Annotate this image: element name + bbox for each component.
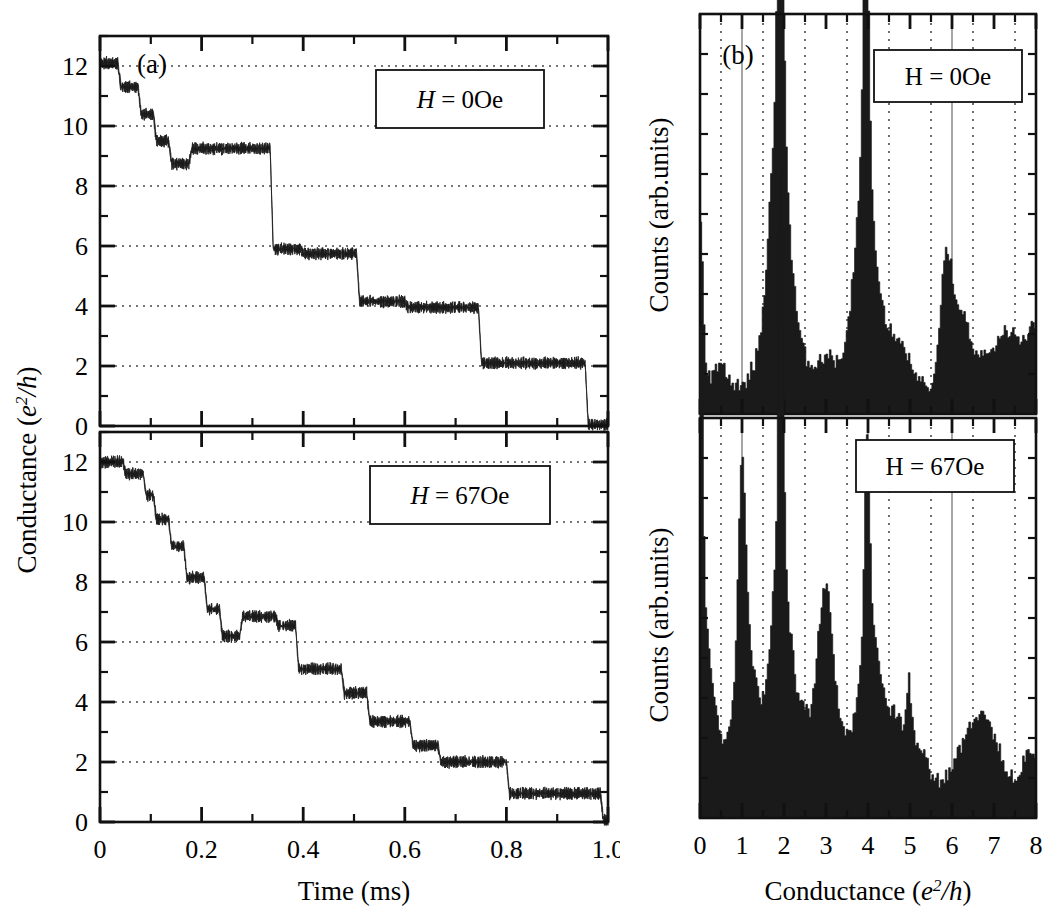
panel-a-bottom-ytick-label: 8 bbox=[75, 568, 88, 597]
panel-a-bottom-ytick-label: 2 bbox=[75, 748, 88, 777]
panel-b-top-annotation-value: 0Oe bbox=[950, 63, 992, 90]
svg-text:Conductance (e2/h): Conductance (e2/h) bbox=[12, 366, 43, 573]
panel-b-bottom-xtick-label: 2 bbox=[778, 831, 791, 860]
ylabel-suffix: ) bbox=[12, 366, 42, 375]
panel-a-bottom-ytick-label: 6 bbox=[75, 628, 88, 657]
panel-a-top-ytick-label: 0 bbox=[75, 412, 88, 441]
panel-b-xlabel: Conductance (e2/h) bbox=[764, 876, 971, 907]
panel-b-bottom-annotation-text: H = 67Oe bbox=[886, 453, 985, 480]
panel-a-top-subplot: 024681012(a)H = 0Oe bbox=[62, 36, 608, 441]
panel-b-bottom-xtick-label: 0 bbox=[694, 831, 707, 860]
panel-b-bottom-xtick-label: 3 bbox=[820, 831, 833, 860]
ylabel-e: e bbox=[12, 405, 42, 417]
panel-b-bottom-xtick-label: 8 bbox=[1030, 831, 1043, 860]
panel-b-bottom-ylabel: Counts (arb.units) bbox=[644, 528, 674, 723]
panel-b-top-annotation-equals: = bbox=[923, 63, 950, 90]
panel-a-bottom-ytick-label: 4 bbox=[75, 688, 88, 717]
panel-a-top-ytick-label: 12 bbox=[62, 52, 88, 81]
panel-b-top-subplot: (b)H = 0Oe bbox=[700, 0, 1036, 414]
panel-a-bottom-xtick-label: 0 bbox=[94, 835, 107, 864]
figure-container: Conductance (e2/h) 024681012(a)H = 0Oe 0… bbox=[0, 0, 1056, 924]
panel-b-bottom-xtick-label: 1 bbox=[736, 831, 749, 860]
panel-a-bottom-xtick-label: 0.8 bbox=[490, 835, 523, 864]
panel-a-ylabel: Conductance (e2/h) bbox=[12, 366, 43, 573]
panel-a-bottom-xtick-label: 0.4 bbox=[287, 835, 320, 864]
panel-a-top-ytick-label: 8 bbox=[75, 172, 88, 201]
panel-a-bottom-xtick-label: 0.2 bbox=[185, 835, 218, 864]
panel-a-top-annotation-text: H = 0Oe bbox=[416, 86, 503, 113]
panel-a-top-ytick-label: 10 bbox=[62, 112, 88, 141]
xlabel-e: e bbox=[921, 876, 933, 906]
panel-b-bottom-annotation-equals: = bbox=[904, 453, 931, 480]
panel-a-top-annotation-value: 0Oe bbox=[462, 86, 504, 113]
panel-a-top-ytick-label: 6 bbox=[75, 232, 88, 261]
panel-a-bottom-xtick-label: 0.6 bbox=[389, 835, 422, 864]
panel-a-bottom-annotation-value: 67Oe bbox=[455, 482, 509, 509]
xlabel-denom: /h bbox=[940, 876, 963, 906]
xlabel-suffix: ) bbox=[963, 876, 972, 906]
panel-a-bottom-ytick-label: 10 bbox=[62, 508, 88, 537]
ylabel-denom: /h bbox=[12, 375, 42, 398]
panel-b: Counts (arb.units) Counts (arb.units) (b… bbox=[620, 0, 1056, 924]
panel-a-xlabel: Time (ms) bbox=[298, 876, 410, 906]
panel-b-top-ylabel: Counts (arb.units) bbox=[644, 118, 674, 313]
panel-a-label: (a) bbox=[137, 49, 167, 79]
panel-a-bottom-annotation-variable: H bbox=[410, 482, 431, 509]
panel-a-top-ytick-label: 4 bbox=[75, 292, 88, 321]
panel-a-top-ytick-label: 2 bbox=[75, 352, 88, 381]
panel-b-bottom-annotation-value: 67Oe bbox=[930, 453, 984, 480]
panel-b-top-annotation-text: H = 0Oe bbox=[905, 63, 991, 90]
panel-a-bottom-ytick-label: 0 bbox=[75, 808, 88, 837]
panel-a-bottom-ytick-label: 12 bbox=[62, 448, 88, 477]
panel-b-bottom-annotation-variable: H bbox=[886, 453, 904, 480]
panel-b-bottom-xtick-label: 5 bbox=[904, 831, 917, 860]
panel-b-top-annotation-variable: H bbox=[905, 63, 923, 90]
panel-b-label: (b) bbox=[722, 40, 753, 70]
panel-a-bottom-xtick-label: 1.0 bbox=[592, 835, 620, 864]
panel-a-bottom-annotation-text: H = 67Oe bbox=[410, 482, 510, 509]
panel-b-bottom-xtick-label: 7 bbox=[988, 831, 1001, 860]
panel-a-top-annotation-variable: H bbox=[416, 86, 437, 113]
svg-text:Conductance (e2/h): Conductance (e2/h) bbox=[764, 876, 971, 907]
panel-b-bottom-xtick-label: 6 bbox=[946, 831, 959, 860]
panel-a: Conductance (e2/h) 024681012(a)H = 0Oe 0… bbox=[0, 0, 620, 924]
xlabel-prefix: Conductance ( bbox=[764, 876, 921, 906]
panel-a-bottom-subplot: 02468101200.20.40.60.81.0H = 67Oe bbox=[62, 432, 620, 864]
panel-b-bottom-xtick-label: 4 bbox=[862, 831, 875, 860]
ylabel-prefix: Conductance ( bbox=[12, 417, 42, 574]
panel-a-bottom-annotation-equals: = bbox=[429, 482, 456, 509]
panel-a-top-annotation-equals: = bbox=[435, 86, 462, 113]
